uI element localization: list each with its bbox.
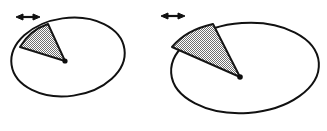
- figure-root: [0, 0, 327, 131]
- figure-canvas: [0, 0, 327, 131]
- small-ellipse-center-dot: [62, 58, 67, 63]
- large-ellipse-center-dot: [237, 74, 243, 80]
